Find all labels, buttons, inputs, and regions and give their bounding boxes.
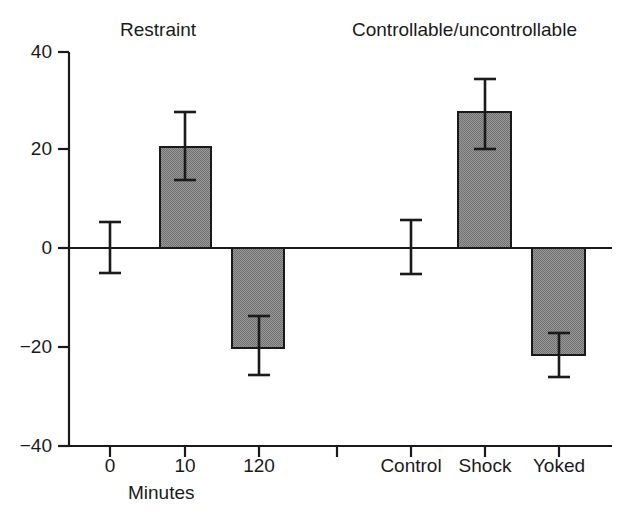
y-axis: [58, 52, 69, 446]
x-axis: [69, 446, 612, 457]
plot-area: [0, 0, 618, 519]
chart-figure: Restraint Controllable/uncontrollable 40…: [0, 0, 618, 519]
